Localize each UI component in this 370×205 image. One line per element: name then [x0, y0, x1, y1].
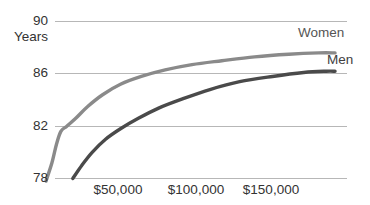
ytick-label-86: 86 — [4, 66, 48, 80]
ytick-label-78: 78 — [4, 171, 48, 185]
xtick-label-50000: $50,000 — [94, 183, 143, 197]
series-lines — [46, 53, 335, 181]
xtick-label-100000: $100,000 — [168, 183, 224, 197]
life-expectancy-by-income-chart: 90 Years 86 82 78 $50,000 $100,000 $150,… — [0, 0, 370, 205]
series-line-women — [46, 53, 335, 181]
series-label-women: Women — [298, 26, 344, 40]
y-axis-unit-label: Years — [4, 30, 48, 44]
xtick-label-150000: $150,000 — [243, 183, 299, 197]
gridlines — [55, 22, 347, 179]
series-label-men: Men — [327, 53, 353, 67]
ytick-label-82: 82 — [4, 119, 48, 133]
ytick-label-90: 90 — [4, 14, 48, 28]
